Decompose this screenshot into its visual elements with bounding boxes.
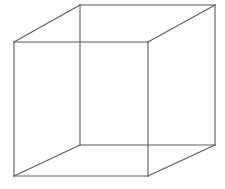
figure-background [0, 0, 225, 189]
necker-cube-figure [0, 0, 225, 189]
